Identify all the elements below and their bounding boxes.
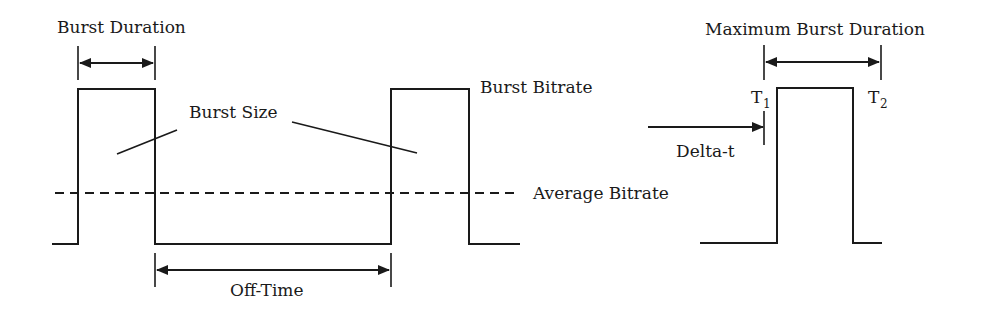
burst-duration-label: Burst Duration [57, 17, 186, 37]
off-time-label: Off-Time [230, 280, 304, 300]
burst-bitrate-label: Burst Bitrate [480, 77, 592, 97]
burst-size-leader-right [292, 122, 417, 153]
t2-label: T [868, 87, 880, 107]
burst-duration-dimension [78, 46, 155, 80]
max-burst-duration-label: Maximum Burst Duration [705, 19, 925, 39]
burst-waveform [52, 89, 520, 244]
max-burst-duration-dimension [764, 45, 881, 80]
max-burst-waveform [700, 88, 882, 243]
max-burst-duration-diagram: Maximum Burst Duration T 1 T 2 Delta-t [648, 19, 925, 243]
t2-subscript: 2 [880, 97, 888, 111]
burst-traffic-diagram: Burst Duration Burst Size Burst Bitrate … [52, 17, 669, 300]
burst-size-leader-left [117, 130, 177, 154]
burst-size-label: Burst Size [189, 102, 278, 122]
delta-t-label: Delta-t [676, 141, 735, 161]
delta-t-arrow [648, 111, 764, 145]
t1-subscript: 1 [763, 97, 771, 111]
average-bitrate-label: Average Bitrate [532, 183, 669, 203]
burst-diagram: Burst Duration Burst Size Burst Bitrate … [0, 0, 992, 323]
t1-label: T [751, 87, 763, 107]
